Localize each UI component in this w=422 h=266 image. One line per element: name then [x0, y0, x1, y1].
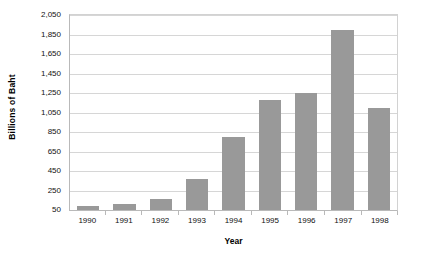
y-axis-tick-label: 1,250: [41, 88, 61, 97]
bar-slot: [215, 15, 251, 210]
y-axis-tick-label: 50: [52, 205, 61, 214]
bar-slot: [361, 15, 397, 210]
y-axis-tick-label: 2,050: [41, 10, 61, 19]
x-axis-tick: [142, 211, 179, 215]
bar[interactable]: [295, 93, 317, 210]
bar-series: [70, 15, 397, 210]
x-axis-tick-label: 1992: [142, 216, 179, 230]
bar-slot: [143, 15, 179, 210]
y-axis-tick-label: 450: [48, 166, 61, 175]
y-axis-tick-label: 1,450: [41, 68, 61, 77]
x-axis-tick: [106, 211, 143, 215]
x-axis-tick-label: 1991: [106, 216, 143, 230]
bar[interactable]: [150, 199, 172, 210]
bar[interactable]: [186, 179, 208, 210]
y-axis-title: Billions of Baht: [0, 0, 24, 214]
bar[interactable]: [368, 108, 390, 210]
x-axis-tick-label: 1993: [179, 216, 216, 230]
y-axis-title-label: Billions of Baht: [7, 74, 17, 140]
x-axis-tick: [288, 211, 325, 215]
bar[interactable]: [259, 100, 281, 210]
bar-chart: Billions of Baht 502504506508501,0501,25…: [0, 0, 422, 266]
x-axis-tick-label: 1995: [252, 216, 289, 230]
bar[interactable]: [331, 30, 353, 210]
x-axis-tick: [252, 211, 289, 215]
x-axis-tick-label: 1996: [288, 216, 325, 230]
x-axis-tick-label: 1990: [69, 216, 106, 230]
x-axis-tick: [69, 211, 106, 215]
y-axis-tick-label: 850: [48, 127, 61, 136]
bar-slot: [70, 15, 106, 210]
bar-slot: [179, 15, 215, 210]
y-axis-tick-label: 1,050: [41, 107, 61, 116]
y-axis-tick-label: 250: [48, 185, 61, 194]
x-axis-tick-labels: 199019911992199319941995199619971998: [69, 216, 398, 230]
bar-slot: [288, 15, 324, 210]
bar-slot: [324, 15, 360, 210]
bar-slot: [252, 15, 288, 210]
x-axis-tick-label: 1998: [362, 216, 399, 230]
bar[interactable]: [113, 204, 135, 210]
x-axis-tick: [325, 211, 362, 215]
y-axis-tick-label: 1,850: [41, 29, 61, 38]
bar[interactable]: [222, 137, 244, 210]
x-axis-tick-label: 1997: [325, 216, 362, 230]
plot-area: [69, 14, 398, 211]
x-axis-tick: [179, 211, 216, 215]
y-axis-tick-label: 650: [48, 146, 61, 155]
y-axis-tick-labels: 502504506508501,0501,2501,4501,6501,8502…: [24, 0, 66, 214]
x-axis-ticks: [69, 211, 398, 215]
y-axis-tick-label: 1,650: [41, 49, 61, 58]
x-axis-tick-label: 1994: [215, 216, 252, 230]
x-axis-tick: [362, 211, 399, 215]
x-axis-tick: [215, 211, 252, 215]
x-axis-title: Year: [69, 236, 398, 246]
bar[interactable]: [77, 206, 99, 210]
bar-slot: [106, 15, 142, 210]
